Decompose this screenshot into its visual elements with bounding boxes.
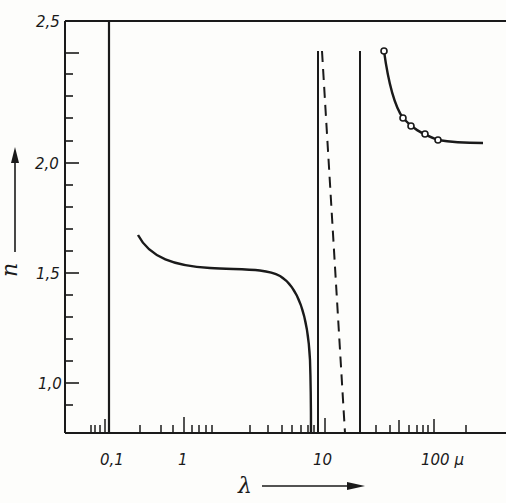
x-axis-ticks [91, 417, 466, 433]
dispersion-curve-far-ir [384, 51, 483, 143]
open-circle-marker [400, 115, 406, 121]
arrow-up-icon [11, 147, 19, 163]
open-circle-marker [408, 123, 414, 129]
data-markers [381, 48, 441, 143]
dashed-line [322, 51, 345, 433]
x-axis-label: λ [237, 473, 252, 498]
x-tick-label-100: 100 μ [421, 451, 464, 469]
y-axis-label-group: n [0, 147, 22, 277]
arrow-right-icon [347, 482, 365, 490]
y-axis-label: n [0, 263, 22, 277]
x-tick-label-0.1: 0,1 [100, 451, 124, 469]
open-circle-marker [422, 131, 428, 137]
x-axis-label-group: λ [237, 473, 365, 498]
open-circle-marker [435, 137, 441, 143]
y-tick-label-2.5: 2,5 [36, 13, 60, 31]
y-tick-label-1.5: 1,5 [36, 265, 60, 283]
y-tick-label-1.0: 1,0 [38, 375, 62, 393]
x-tick-label-1: 1 [178, 451, 188, 469]
x-tick-label-10: 10 [313, 451, 332, 469]
y-tick-label-2.0: 2,0 [35, 155, 59, 173]
y-axis-ticks [65, 53, 79, 405]
plot-frame [65, 21, 506, 433]
open-circle-marker [381, 48, 387, 54]
dispersion-curve-visible [138, 235, 311, 433]
chart-canvas: 2,5 2,0 1,5 1,0 n [0, 0, 506, 503]
